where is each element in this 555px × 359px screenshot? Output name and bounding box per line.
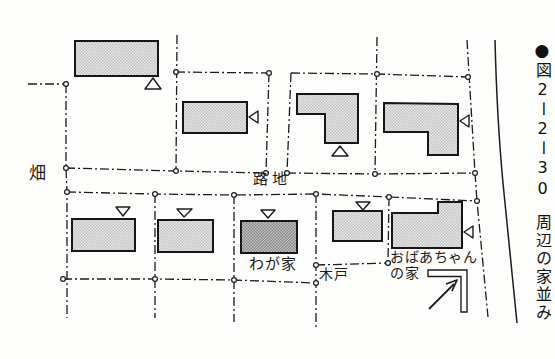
entrance-down-triangle-icon — [116, 207, 130, 216]
plot-node — [314, 192, 319, 197]
entrance-down-triangle-icon — [356, 202, 370, 210]
house-9-grandma-house — [392, 202, 462, 248]
figure-2-2-30-map: 畑 路地 わが家 木戸 おばあちゃん の家 ● 図2ー2ー30 周辺の家並み — [0, 0, 555, 359]
boundary-vertical-right-top — [467, 40, 475, 173]
plot-node — [174, 169, 179, 174]
entrance-left-triangle-icon — [460, 115, 469, 127]
house-6 — [158, 220, 213, 252]
house-7-my-house — [241, 221, 297, 253]
house-5 — [72, 219, 135, 251]
plot-node — [373, 172, 378, 177]
entrance-down-triangle-icon — [177, 209, 192, 217]
entrance-left-triangle-icon — [464, 226, 473, 238]
plot-node — [153, 192, 158, 197]
label-gate: 木戸 — [319, 266, 349, 282]
caption-title: 周辺の家並み — [530, 214, 554, 322]
alley-north-edge-a — [66, 168, 266, 173]
plot-node — [466, 75, 471, 80]
entrance-left-triangle-icon — [249, 111, 258, 123]
boundary-right-slant — [475, 173, 488, 317]
plot-node — [61, 277, 66, 282]
figure-caption: ● 図2ー2ー30 周辺の家並み — [530, 40, 554, 340]
plot-node — [174, 70, 179, 75]
label-my-house: わが家 — [249, 256, 297, 273]
house-4 — [384, 103, 458, 155]
plot-node — [64, 166, 69, 171]
caption-figure-number: 図2ー2ー30 — [530, 62, 554, 200]
plot-node — [232, 193, 237, 198]
boundary-vertical-6 — [388, 197, 389, 263]
entrance-up-triangle-icon — [332, 146, 348, 156]
plot-node — [267, 71, 272, 76]
label-field: 畑 — [29, 164, 46, 184]
boundary-vertical-2 — [375, 37, 377, 174]
boundary-vertical-alley-west — [266, 73, 269, 173]
label-grandma-house: おばあちゃん の家 — [390, 249, 477, 281]
boundary-left-vertical — [66, 84, 67, 318]
label-alley: 路地 — [253, 171, 291, 188]
house-3 — [297, 94, 358, 143]
house-1 — [75, 41, 158, 76]
caption-bullet-icon: ● — [532, 40, 552, 62]
plot-node — [475, 199, 480, 204]
plot-node — [375, 72, 380, 77]
arrow-shaft-icon — [429, 284, 454, 309]
house-2 — [183, 102, 247, 133]
plot-node — [314, 281, 319, 286]
road-edge-line — [495, 40, 517, 323]
plot-node — [473, 171, 478, 176]
plot-node — [65, 190, 70, 195]
plot-node — [153, 277, 158, 282]
plot-node — [387, 195, 392, 200]
plot-node — [64, 82, 69, 87]
entrance-down-triangle-icon — [261, 210, 275, 218]
entrance-up-triangle-icon — [145, 78, 161, 89]
plot-node — [232, 278, 237, 283]
house-8 — [333, 211, 382, 241]
boundary-vertical-alley-east — [287, 73, 291, 173]
boundary-top-horizontal-a — [176, 72, 269, 73]
boundary-vertical-1 — [176, 35, 177, 171]
alley-south-edge — [67, 192, 477, 201]
alley-north-edge-b — [287, 173, 475, 174]
lower-block-south-edge — [63, 279, 316, 283]
plot-node — [314, 263, 319, 268]
gate-boundary-line — [316, 263, 388, 265]
